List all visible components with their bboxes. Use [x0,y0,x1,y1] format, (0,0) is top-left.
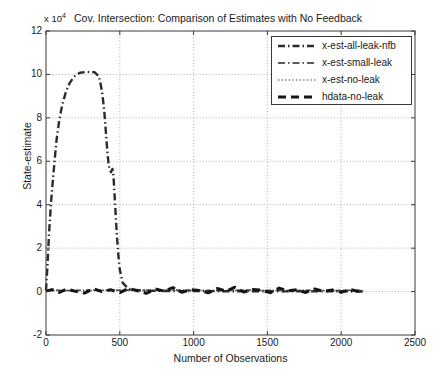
legend-line-sample-1 [277,56,317,70]
legend-label: x-est-all-leak-nfb [322,40,396,51]
legend-line-sample-0 [277,39,317,53]
legend-label: x-est-small-leak [322,57,392,68]
legend-item: x-est-small-leak [272,54,411,71]
legend-item: hdata-no-leak [272,88,411,105]
chart-legend: x-est-all-leak-nfb x-est-small-leak x-es… [271,36,412,105]
figure-canvas: x 104 Cov. Intersection: Comparison of E… [0,0,440,381]
legend-item: x-est-all-leak-nfb [272,37,411,54]
legend-label: hdata-no-leak [322,91,383,102]
legend-label: x-est-no-leak [322,74,380,85]
legend-line-sample-2 [277,73,317,87]
legend-item: x-est-no-leak [272,71,411,88]
legend-line-sample-3 [277,90,317,104]
